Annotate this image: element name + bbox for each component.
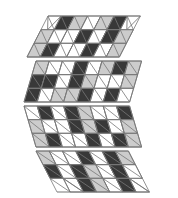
figure-root (0, 0, 178, 198)
hexagon-tiling-figure (0, 0, 178, 198)
band-3 (24, 106, 142, 147)
band-2 (24, 61, 142, 102)
